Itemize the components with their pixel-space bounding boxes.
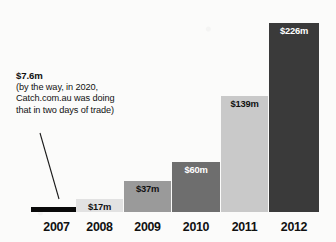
bar-value-label-2009: $37m bbox=[124, 183, 171, 194]
plot-area: $17m $37m $60m $139m $226m 2007 2008 200… bbox=[0, 0, 336, 242]
bar-value-label-2011: $139m bbox=[221, 98, 268, 109]
bar-2008[interactable]: $17m bbox=[76, 199, 123, 212]
bar-2011[interactable]: $139m bbox=[221, 96, 268, 212]
bar-chart: $7.6m (by the way, in 2020, Catch.com.au… bbox=[0, 0, 336, 242]
bar-2012[interactable]: $226m bbox=[269, 23, 319, 212]
x-axis-label-2012: 2012 bbox=[269, 220, 319, 234]
bar-2007[interactable] bbox=[31, 207, 82, 212]
bar-2009[interactable]: $37m bbox=[124, 181, 171, 212]
bar-slot-2010: $60m bbox=[172, 162, 220, 212]
x-axis-label-2007: 2007 bbox=[31, 220, 82, 234]
bar-value-label-2010: $60m bbox=[172, 164, 220, 175]
bar-slot-2009: $37m bbox=[124, 181, 171, 212]
x-axis-label-2010: 2010 bbox=[172, 220, 220, 234]
bar-slot-2008: $17m bbox=[76, 199, 123, 212]
bar-2010[interactable]: $60m bbox=[172, 162, 220, 212]
bar-slot-2007 bbox=[31, 207, 82, 212]
x-axis-label-2008: 2008 bbox=[76, 220, 123, 234]
bar-slot-2011: $139m bbox=[221, 96, 268, 212]
x-axis-label-2011: 2011 bbox=[221, 220, 268, 234]
bar-value-label-2012: $226m bbox=[269, 25, 319, 36]
bar-slot-2012: $226m bbox=[269, 23, 319, 212]
x-axis-label-2009: 2009 bbox=[124, 220, 171, 234]
bar-value-label-2008: $17m bbox=[76, 201, 123, 212]
